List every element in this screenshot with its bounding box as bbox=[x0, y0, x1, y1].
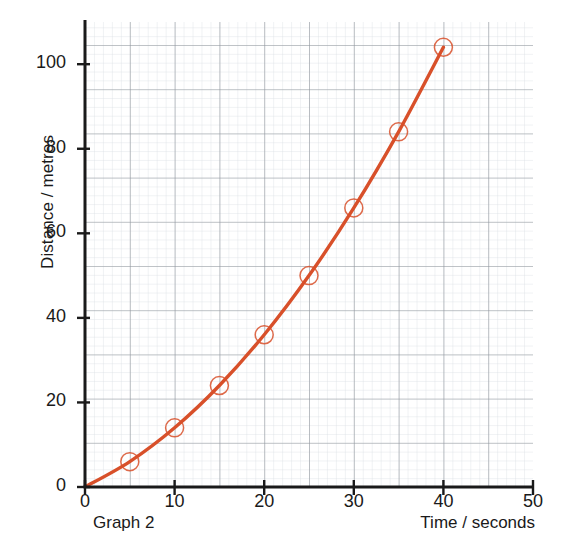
y-tick-label: 40 bbox=[20, 306, 66, 327]
y-tick-label: 60 bbox=[20, 221, 66, 242]
x-tick-label: 20 bbox=[241, 491, 287, 512]
x-axis-title: Time / seconds bbox=[420, 513, 535, 533]
y-tick-label: 80 bbox=[20, 137, 66, 158]
graph-caption: Graph 2 bbox=[93, 513, 154, 533]
y-tick-label: 0 bbox=[20, 475, 66, 496]
y-tick-label: 100 bbox=[20, 52, 66, 73]
x-tick-label: 50 bbox=[510, 491, 556, 512]
x-tick-label: 30 bbox=[331, 491, 377, 512]
plot-area bbox=[0, 0, 563, 554]
x-tick-label: 40 bbox=[420, 491, 466, 512]
x-tick-label: 0 bbox=[62, 491, 108, 512]
y-axis-title: Distance / metres bbox=[38, 82, 58, 322]
x-tick-label: 10 bbox=[152, 491, 198, 512]
y-tick-label: 20 bbox=[20, 390, 66, 411]
grid-major bbox=[85, 22, 533, 487]
chart-container: Distance / metres 020406080100 010203040… bbox=[0, 0, 563, 554]
